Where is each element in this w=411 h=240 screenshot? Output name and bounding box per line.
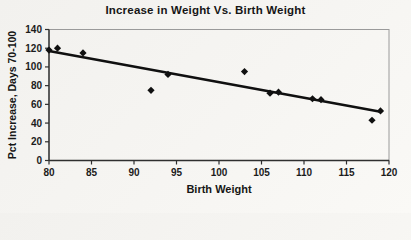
x-tick-label: 110	[296, 167, 313, 178]
trend-line	[49, 51, 381, 112]
data-point-marker	[377, 107, 384, 114]
x-tick-label: 85	[86, 167, 98, 178]
x-tick-label: 100	[211, 167, 228, 178]
x-tick-label: 80	[43, 167, 55, 178]
data-point-marker	[54, 45, 61, 52]
data-point-marker	[368, 117, 375, 124]
y-tick-label: 140	[25, 24, 42, 35]
y-tick-label: 100	[25, 61, 42, 72]
y-tick-label: 120	[25, 43, 42, 54]
data-point-marker	[79, 49, 86, 56]
y-tick-label: 40	[31, 118, 43, 129]
x-tick-label: 115	[338, 167, 355, 178]
x-tick-label: 90	[128, 167, 140, 178]
x-tick-label: 95	[171, 167, 183, 178]
x-tick-label: 120	[381, 167, 398, 178]
data-point-marker	[147, 87, 154, 94]
y-tick-label: 60	[31, 99, 43, 110]
y-tick-label: 20	[31, 136, 43, 147]
y-tick-label: 80	[31, 80, 43, 91]
plot-area: 0204060801001201408085909510010511011512…	[0, 0, 411, 213]
chart-page: { "chart_data": { "type": "scatter", "ti…	[0, 0, 411, 213]
plot-border	[49, 30, 389, 161]
y-tick-label: 0	[36, 155, 42, 166]
data-point-marker	[309, 95, 316, 102]
x-tick-label: 105	[253, 167, 270, 178]
data-point-marker	[241, 68, 248, 75]
